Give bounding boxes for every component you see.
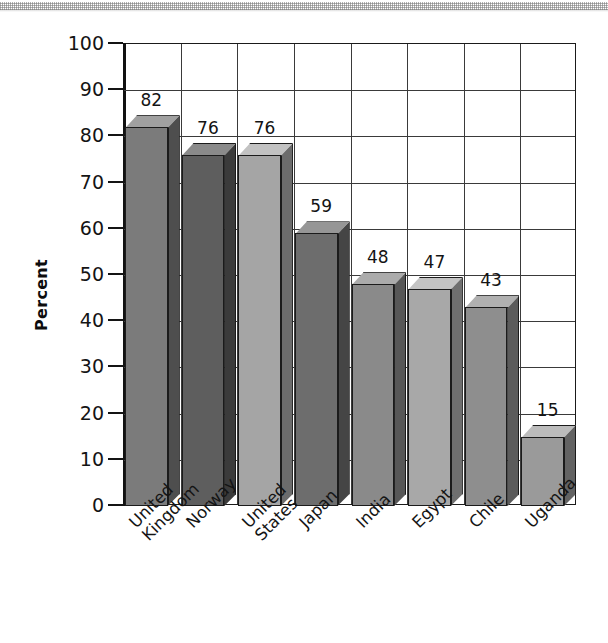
bar-front-face [408,289,451,506]
y-tick-label: 80 [52,124,104,146]
y-axis-title: Percent [32,259,51,331]
scan-artifact-fade [0,9,608,12]
bar-side-face [451,277,463,506]
bar-front-face [352,284,395,506]
y-tick-mark [108,504,123,506]
bar-side-face [507,295,519,506]
bar-value-label: 76 [197,118,219,138]
y-tick-mark [108,458,123,460]
y-tick-label: 90 [52,78,104,100]
y-tick-mark [108,42,123,44]
bar-value-label: 76 [254,118,276,138]
y-tick-mark [108,134,123,136]
bar-value-label: 43 [480,270,502,290]
bar-side-face [168,115,180,506]
chart-page: Percent 1009080706050403020100 827676594… [0,0,608,643]
bar-front-face [238,155,281,506]
y-tick-mark [108,319,123,321]
y-tick-label: 50 [52,263,104,285]
bar-value-label: 15 [537,400,559,420]
y-tick-label: 60 [52,217,104,239]
bar-side-face [338,221,350,506]
bar-front-face [465,307,508,506]
bar-front-face [295,233,338,506]
bar [295,44,350,506]
bar [521,44,576,506]
y-tick-label: 40 [52,309,104,331]
y-tick-mark [108,227,123,229]
bar-front-face [125,127,168,506]
y-tick-mark [108,88,123,90]
bar [125,44,180,506]
y-tick-mark [108,412,123,414]
bar-value-label: 59 [310,196,332,216]
plot-area [123,43,576,505]
bar-front-face [182,155,225,506]
bar-value-label: 47 [424,252,446,272]
y-tick-mark [108,365,123,367]
bar-side-face [281,143,293,506]
y-tick-label: 20 [52,402,104,424]
bar-value-label: 48 [367,247,389,267]
bar [408,44,463,506]
bar-value-label: 82 [140,90,162,110]
y-tick-label: 100 [52,32,104,54]
y-tick-label: 30 [52,355,104,377]
bar [182,44,237,506]
bar [238,44,293,506]
bar-side-face [394,272,406,506]
bar-side-face [224,143,236,506]
y-tick-label: 0 [52,494,104,516]
y-tick-mark [108,273,123,275]
y-tick-mark [108,181,123,183]
bar [352,44,407,506]
y-tick-label: 70 [52,171,104,193]
y-tick-label: 10 [52,448,104,470]
